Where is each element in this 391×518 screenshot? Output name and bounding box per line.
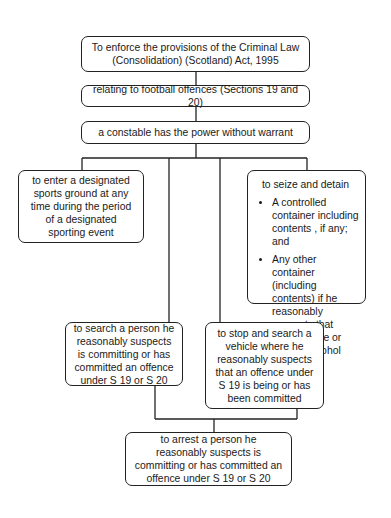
search-person-text: to search a person he reasonably suspect…: [72, 322, 176, 387]
enter-text: to enter a designated sports ground at a…: [27, 174, 135, 239]
search-person-node: to search a person he reasonably suspect…: [65, 322, 183, 386]
root-line1: To enforce the provisions of the Crimina…: [86, 41, 305, 54]
root-node: To enforce the provisions of the Crimina…: [81, 36, 310, 72]
arrest-text: to arrest a person he reasonably suspect…: [134, 433, 283, 485]
seize-node: to seize and detain A controlled contain…: [247, 170, 366, 304]
arrest-node: to arrest a person he reasonably suspect…: [125, 432, 292, 486]
scope-text: relating to football offences (Sections …: [86, 83, 305, 109]
power-node: a constable has the power without warran…: [81, 121, 310, 144]
seize-item: A controlled container including content…: [272, 196, 359, 248]
root-line2: (Consolidation) (Scotland) Act, 1995: [86, 54, 305, 67]
search-vehicle-text: to stop and search a vehicle where he re…: [211, 327, 318, 405]
enter-node: to enter a designated sports ground at a…: [18, 170, 144, 243]
search-vehicle-node: to stop and search a vehicle where he re…: [205, 322, 324, 409]
scope-node: relating to football offences (Sections …: [81, 85, 310, 107]
seize-title: to seize and detain: [252, 178, 359, 191]
power-text: a constable has the power without warran…: [86, 126, 305, 139]
